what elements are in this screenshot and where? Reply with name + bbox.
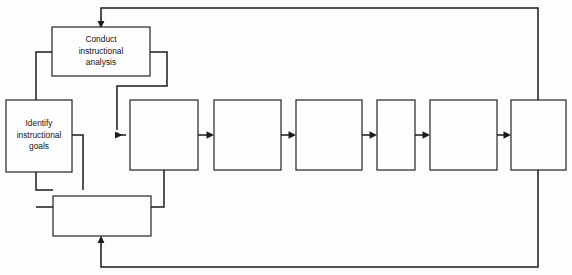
node-box-process-step-5[interactable]: [430, 100, 497, 170]
connector-step-2-to-step-3: [281, 131, 296, 138]
arrowhead-step-5-to-step-6: [504, 131, 512, 138]
arrowhead-step-4-to-step-5: [423, 131, 431, 138]
node-process-step-1[interactable]: [130, 100, 198, 170]
arrowhead-bottom-feedback: [98, 236, 105, 244]
connector-step-5-to-step-6: [497, 131, 511, 138]
node-label-conduct-line3: analysis: [86, 57, 116, 67]
connector-step-1-to-bottom-box: [151, 170, 164, 207]
connector-step-1-to-step-2: [198, 131, 214, 138]
connector-step-4-to-step-5: [415, 131, 430, 138]
node-conduct-instructional-analysis[interactable]: Conduct instructional analysis: [52, 27, 150, 76]
node-process-step-3[interactable]: [296, 100, 362, 170]
node-box-bottom-box[interactable]: [53, 196, 151, 236]
node-box-process-step-6[interactable]: [511, 100, 566, 170]
arrowhead-step-2-to-step-3: [289, 131, 297, 138]
node-process-step-6[interactable]: [511, 100, 566, 170]
node-process-step-5[interactable]: [430, 100, 497, 170]
flowchart-svg: Conduct instructional analysis Identify …: [0, 0, 572, 275]
node-identify-instructional-goals[interactable]: Identify instructional goals: [6, 100, 72, 172]
node-box-process-step-2[interactable]: [214, 100, 281, 170]
connector-step-3-to-step-4: [362, 131, 377, 138]
node-box-process-step-3[interactable]: [296, 100, 362, 170]
node-process-step-2[interactable]: [214, 100, 281, 170]
node-label-conduct-line2: instructional: [79, 46, 124, 56]
node-box-process-step-1[interactable]: [130, 100, 198, 170]
arrowhead-step-1-to-step-2: [207, 131, 215, 138]
node-process-step-4[interactable]: [377, 100, 415, 170]
diagram-canvas: Conduct instructional analysis Identify …: [0, 0, 572, 275]
node-box-process-step-4[interactable]: [377, 100, 415, 170]
node-label-identify-line3: goals: [29, 141, 49, 151]
node-label-identify-line1: Identify: [25, 118, 53, 128]
arrowhead-step-3-to-step-4: [370, 131, 378, 138]
node-label-identify-line2: instructional: [17, 130, 62, 140]
connector-identify-to-step-1: [72, 135, 83, 190]
node-bottom-box[interactable]: [53, 196, 151, 236]
node-label-conduct-line1: Conduct: [85, 34, 117, 44]
